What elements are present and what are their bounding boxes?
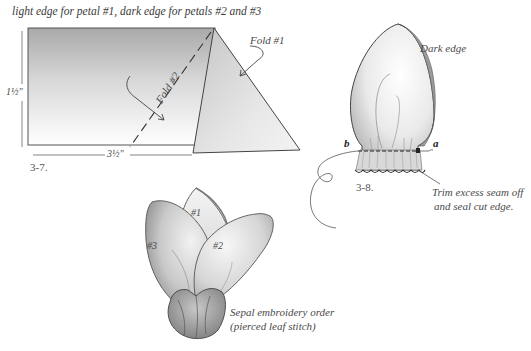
trim-note-leader-line — [418, 170, 440, 184]
sepal-note-line1: Sepal embroidery order — [230, 306, 334, 318]
petal-1-label: #1 — [191, 207, 201, 218]
point-a-label: a — [433, 137, 439, 149]
petal-3-label: #3 — [147, 240, 157, 251]
height-dimension-label: 1½" — [6, 86, 23, 97]
fig-3-7-caption: light edge for petal #1, dark edge for p… — [12, 5, 261, 17]
width-dimension-label: 3½" — [107, 148, 124, 159]
sepal-note-line2: (pierced leaf stitch) — [230, 320, 316, 332]
petal-2-label: #2 — [213, 240, 223, 251]
bud-base — [168, 289, 225, 339]
fold-1-label: Fold #1 — [250, 34, 285, 46]
trim-note-line2: and seal cut edge. — [434, 200, 513, 212]
dark-edge-label: Dark edge — [420, 42, 466, 54]
fig-3-8-number: 3-8. — [356, 181, 373, 193]
trim-note-line1: Trim excess seam off — [432, 186, 523, 198]
fig-3-7-number: 3-7. — [30, 161, 47, 173]
fabric-rectangle — [28, 28, 215, 145]
point-b-label: b — [344, 137, 350, 149]
